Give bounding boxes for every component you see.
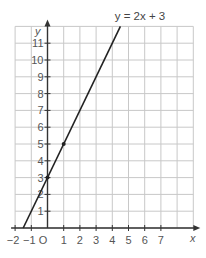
y-tick-label: 9 — [37, 71, 43, 83]
x-tick-label: 2 — [77, 234, 83, 246]
line-chart: −2−112345671234567891011 y = 2x + 3 x y … — [0, 0, 206, 258]
y-tick-label: 2 — [37, 188, 43, 200]
x-tick-label: 3 — [93, 234, 99, 246]
x-tick-label: −2 — [7, 234, 20, 246]
x-tick-label: 4 — [109, 234, 115, 246]
y-tick-label: 5 — [37, 138, 43, 150]
chart-title: y = 2x + 3 — [115, 10, 166, 22]
x-tick-label: 7 — [158, 234, 164, 246]
y-tick-label: 11 — [32, 37, 43, 49]
y-axis-arrow-icon — [45, 19, 51, 26]
x-tick-label: −1 — [23, 234, 36, 246]
point-marker — [62, 142, 66, 146]
y-tick-label: 3 — [37, 172, 43, 184]
origin-label: O — [39, 234, 48, 246]
point-marker — [46, 176, 50, 180]
y-tick-label: 7 — [37, 104, 43, 116]
x-axis-arrow-icon — [193, 225, 200, 231]
x-axis-label: x — [189, 232, 196, 244]
y-tick-label: 8 — [37, 88, 43, 100]
y-tick-label: 10 — [31, 54, 43, 66]
y-tick-label: 1 — [37, 205, 43, 217]
y-tick-label: 4 — [37, 155, 43, 167]
x-tick-label: 5 — [125, 234, 131, 246]
x-tick-label: 1 — [61, 234, 67, 246]
x-tick-label: 6 — [142, 234, 148, 246]
y-tick-label: 6 — [37, 121, 43, 133]
